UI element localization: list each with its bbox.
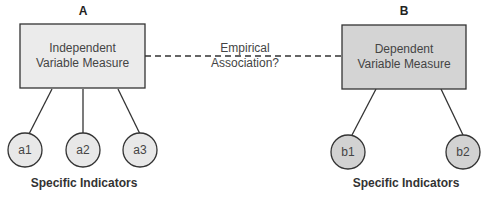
indicator-label-b2: b2 bbox=[446, 146, 480, 158]
dependent-variable-line-1: Dependent bbox=[342, 42, 466, 57]
connector-a1 bbox=[29, 89, 52, 134]
independent-variable-line-1: Independent bbox=[20, 41, 145, 56]
label-a: A bbox=[72, 4, 94, 18]
independent-variable-line-2: Variable Measure bbox=[20, 56, 145, 71]
connector-b2 bbox=[441, 89, 463, 135]
indicators-caption-right: Specific Indicators bbox=[344, 176, 468, 190]
indicator-label-a2: a2 bbox=[66, 144, 100, 156]
association-line-1: Empirical bbox=[195, 41, 295, 56]
connector-a3 bbox=[118, 89, 140, 134]
dependent-variable-line-2: Variable Measure bbox=[342, 57, 466, 72]
indicator-label-a3: a3 bbox=[123, 144, 157, 156]
indicator-label-b1: b1 bbox=[331, 146, 365, 158]
label-b: B bbox=[393, 4, 415, 18]
independent-variable-label: Independent Variable Measure bbox=[20, 41, 145, 71]
diagram-canvas bbox=[0, 0, 484, 199]
association-label: Empirical Association? bbox=[195, 41, 295, 71]
connector-b1 bbox=[352, 89, 376, 135]
indicators-caption-left: Specific Indicators bbox=[22, 176, 146, 190]
indicator-label-a1: a1 bbox=[8, 144, 42, 156]
dependent-variable-label: Dependent Variable Measure bbox=[342, 42, 466, 72]
association-line-2: Association? bbox=[195, 56, 295, 71]
